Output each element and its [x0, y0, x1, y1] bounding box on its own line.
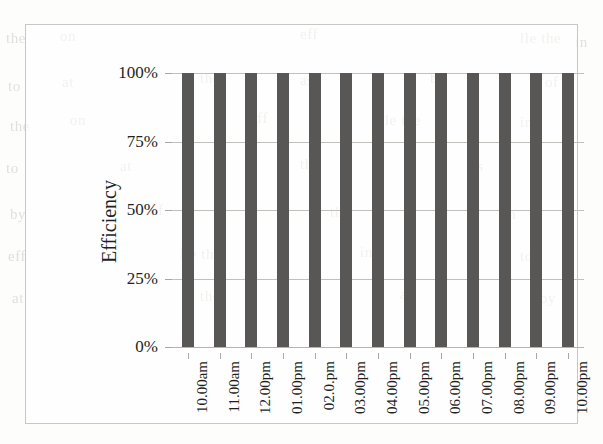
- x-axis-tick-label: 08.00pm: [511, 361, 528, 414]
- plot-area: [172, 73, 584, 347]
- y-axis-tick-label: 0%: [135, 337, 158, 357]
- bar: [435, 73, 447, 347]
- bleed-through-text: eff: [8, 248, 26, 265]
- x-axis-tick-mark: [188, 353, 189, 359]
- bar: [182, 73, 194, 347]
- bar: [214, 73, 226, 347]
- bar: [499, 73, 511, 347]
- y-axis-tick-mark: [165, 73, 172, 74]
- bleed-through-text: the: [6, 30, 26, 47]
- x-axis-tick-label: 09.00pm: [542, 361, 559, 414]
- bar: [404, 73, 416, 347]
- y-axis-title: Efficiency: [98, 180, 121, 263]
- y-axis-tick-label: 75%: [127, 132, 158, 152]
- x-axis-tick-mark: [251, 353, 252, 359]
- x-axis-tick-label: 11.00am: [226, 361, 243, 413]
- bar: [530, 73, 542, 347]
- y-axis-tick-mark: [165, 279, 172, 280]
- x-axis-tick-mark: [378, 353, 379, 359]
- bar: [277, 73, 289, 347]
- bar: [562, 73, 574, 347]
- bleed-through-text: by: [10, 206, 26, 223]
- bar: [245, 73, 257, 347]
- x-axis-tick-labels: 10.00am11.00am12.00pm01.00pm02.0.pm03.00…: [172, 353, 584, 444]
- bleed-through-text: to: [6, 160, 19, 177]
- x-axis-tick-label: 06.00pm: [447, 361, 464, 414]
- x-axis-tick-mark: [410, 353, 411, 359]
- x-axis-tick-label: 04.00pm: [384, 361, 401, 414]
- x-axis-tick-label: 03.00pm: [352, 361, 369, 414]
- x-axis-tick-label: 12.00pm: [257, 361, 274, 414]
- x-axis-tick-mark: [283, 353, 284, 359]
- bar: [467, 73, 479, 347]
- bleed-through-text: to: [8, 78, 21, 95]
- chart-frame: Efficiency 0%25%50%75%100% 10.00am11.00a…: [25, 24, 578, 424]
- x-axis-tick-label: 02.0.pm: [321, 361, 338, 410]
- bar: [309, 73, 321, 347]
- x-axis-tick-label: 07.00pm: [479, 361, 496, 414]
- y-axis-tick-mark: [165, 142, 172, 143]
- y-axis-tick-mark: [165, 347, 172, 348]
- gridline: [172, 347, 584, 348]
- x-axis-tick-mark: [315, 353, 316, 359]
- x-axis-tick-mark: [346, 353, 347, 359]
- bleed-through-text: at: [12, 290, 24, 307]
- x-axis-tick-mark: [536, 353, 537, 359]
- scanned-page-background: theonefflle theintoattheasbyoftheoneffll…: [0, 0, 603, 444]
- x-axis-tick-mark: [568, 353, 569, 359]
- x-axis-tick-mark: [505, 353, 506, 359]
- bar: [340, 73, 352, 347]
- y-axis-tick-label: 50%: [127, 200, 158, 220]
- y-axis-tick-label: 100%: [118, 63, 158, 83]
- bar: [372, 73, 384, 347]
- x-axis-tick-label: 10.00am: [194, 361, 211, 413]
- x-axis-tick-mark: [441, 353, 442, 359]
- x-axis-tick-label: 10.00pm: [574, 361, 591, 414]
- x-axis-tick-label: 05.00pm: [416, 361, 433, 414]
- y-axis-tick-label: 25%: [127, 269, 158, 289]
- x-axis-tick-label: 01.00pm: [289, 361, 306, 414]
- x-axis-tick-mark: [473, 353, 474, 359]
- y-axis-tick-mark: [165, 210, 172, 211]
- x-axis-tick-mark: [220, 353, 221, 359]
